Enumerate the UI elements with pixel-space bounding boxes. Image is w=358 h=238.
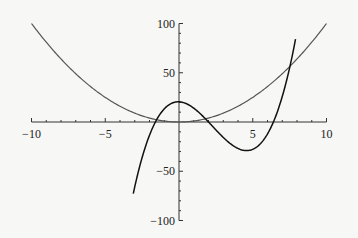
y-tick-label: 50 <box>163 66 175 80</box>
y-tick-label: −100 <box>150 214 175 228</box>
x-tick-label: −5 <box>99 127 112 141</box>
y-tick-label: −50 <box>156 164 175 178</box>
x-tick-label: −10 <box>22 127 41 141</box>
x-tick-label: 10 <box>321 127 333 141</box>
x-tick-label: 5 <box>250 127 256 141</box>
function-plot: −10−551010050−50−100 <box>0 0 358 238</box>
y-tick-label: 100 <box>157 17 175 31</box>
